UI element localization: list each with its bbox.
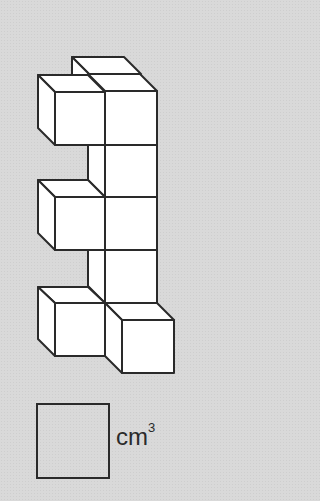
cube-stack-figure bbox=[0, 0, 226, 400]
unit-base: cm bbox=[116, 423, 148, 450]
answer-input-box[interactable] bbox=[36, 403, 110, 479]
unit-label: cm3 bbox=[116, 425, 155, 449]
cube-bottom-right-front bbox=[105, 303, 174, 373]
cube-middle-left bbox=[38, 180, 105, 250]
cube-top-left bbox=[38, 75, 105, 145]
cube-bottom-left bbox=[38, 287, 105, 356]
unit-exponent: 3 bbox=[148, 420, 155, 435]
